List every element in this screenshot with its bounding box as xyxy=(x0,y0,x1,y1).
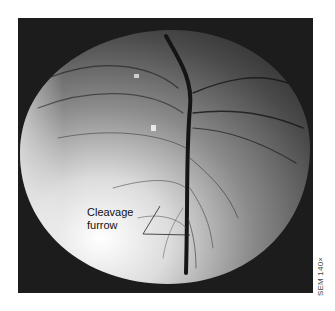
embryo-micrograph xyxy=(18,18,313,293)
label-line-2: furrow xyxy=(87,219,133,232)
label-line-1: Cleavage xyxy=(87,206,133,219)
magnification-credit: SEM 140× xyxy=(316,257,325,296)
micrograph-frame xyxy=(18,18,313,293)
surface-particle xyxy=(134,74,139,78)
surface-particle xyxy=(151,125,156,131)
cleavage-furrow-label: Cleavage furrow xyxy=(87,206,133,232)
